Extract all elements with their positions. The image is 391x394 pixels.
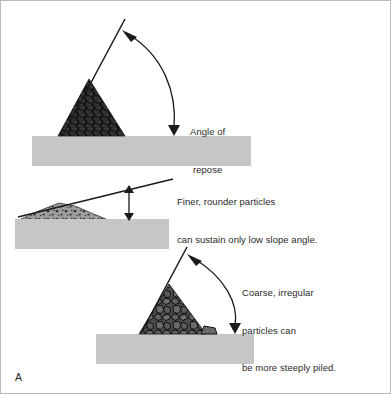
label-coarse-particles: Coarse, irregular particles can be more … xyxy=(242,262,336,394)
angle-arc-bottom-arrowhead-lower xyxy=(229,323,241,334)
angle-arc-top-arrowhead-upper xyxy=(122,30,137,42)
ground-bar-middle xyxy=(15,219,169,249)
label-coarse-particles-line3: be more steeply piled. xyxy=(242,362,336,375)
label-finer-particles-line2: can sustain only low slope angle. xyxy=(177,234,318,247)
angle-arc-top xyxy=(128,34,174,128)
angle-arc-top-arrowhead-lower xyxy=(168,125,180,136)
label-finer-particles: Finer, rounder particles can sustain onl… xyxy=(177,171,318,271)
ground-bar-bottom xyxy=(96,334,254,364)
panel-fine-low xyxy=(15,179,173,249)
label-coarse-particles-line1: Coarse, irregular xyxy=(242,287,336,300)
pile-coarse-blocks xyxy=(133,277,217,337)
label-finer-particles-line1: Finer, rounder particles xyxy=(177,196,318,209)
label-coarse-particles-line2: particles can xyxy=(242,325,336,338)
pile-rounded-grains xyxy=(51,71,136,141)
label-angle-of-repose-line1: Angle of xyxy=(190,126,225,139)
coarse-block-outlier xyxy=(201,326,217,334)
panel-letter: A xyxy=(15,371,22,383)
slope-line-middle xyxy=(18,179,173,217)
angle-of-repose-figure: Angle of repose Finer, rounder particles… xyxy=(0,0,391,394)
